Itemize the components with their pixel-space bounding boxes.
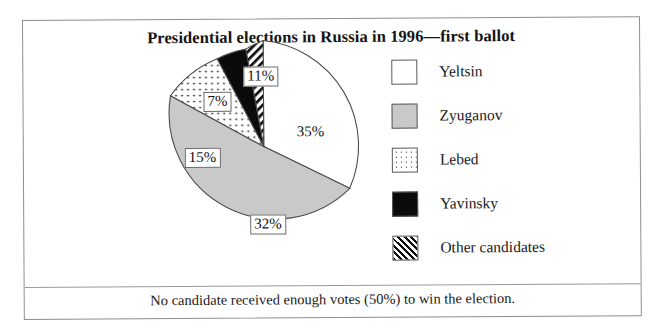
- legend-item-yeltsin: Yeltsin: [391, 57, 621, 84]
- legend-swatch-lebed-icon: [392, 147, 418, 172]
- legend-label-yavinsky: Yavinsky: [440, 194, 498, 212]
- legend-label-yeltsin: Yeltsin: [439, 62, 482, 80]
- legend-item-lebed: Lebed: [392, 145, 622, 172]
- figure-frame: Presidential elections in Russia in 1996…: [22, 16, 642, 320]
- pie-label-yavinsky: 7%: [203, 92, 231, 112]
- legend-swatch-yavinsky-icon: [392, 191, 418, 216]
- legend-item-yavinsky: Yavinsky: [392, 189, 622, 216]
- caption-divider: [25, 283, 641, 288]
- legend-label-zyuganov: Zyuganov: [440, 106, 503, 124]
- legend-item-zyuganov: Zyuganov: [392, 101, 622, 128]
- legend-item-other-candidates: Other candidates: [392, 233, 622, 260]
- legend: Yeltsin Zyuganov Lebed Yavinsky Other ca…: [391, 57, 622, 278]
- pie-label-other-candidates: 11%: [243, 66, 278, 86]
- legend-swatch-other-candidates-icon: [392, 235, 418, 260]
- legend-swatch-zyuganov-icon: [392, 103, 418, 128]
- legend-label-lebed: Lebed: [440, 150, 479, 168]
- legend-label-other-candidates: Other candidates: [440, 238, 545, 257]
- pie-label-yeltsin: 35%: [294, 123, 328, 141]
- pie-chart: 35% 32% 15% 7% 11%: [156, 39, 371, 254]
- figure-caption: No candidate received enough votes (50%)…: [25, 289, 641, 310]
- legend-swatch-yeltsin-icon: [391, 59, 417, 84]
- pie-label-lebed: 15%: [185, 148, 221, 168]
- pie-label-zyuganov: 32%: [250, 214, 286, 234]
